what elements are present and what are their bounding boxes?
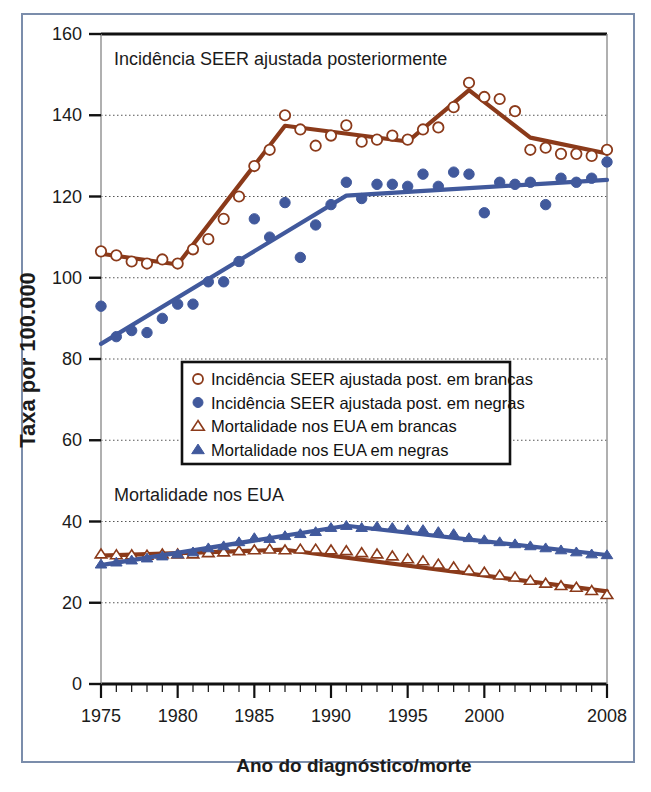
x-tick-label: 1985 (234, 706, 274, 726)
plot-series-group (95, 78, 613, 599)
x-tick-label: 1990 (311, 706, 351, 726)
legend-item-label: Incidência SEER ajustada post. em negras (211, 394, 525, 412)
x-axis-label: Ano do diagnóstico/morte (236, 755, 471, 776)
legend-item-label: Incidência SEER ajustada post. em branca… (211, 370, 533, 388)
legend-item-label: Mortalidade nos EUA em brancas (211, 417, 457, 435)
x-tick-label: 1980 (158, 706, 198, 726)
legend[interactable]: Incidência SEER ajustada post. em branca… (182, 362, 533, 464)
y-tick-label: 100 (52, 268, 82, 288)
y-tick-label: 80 (62, 349, 82, 369)
series-1 (96, 157, 612, 344)
series-0 (96, 78, 612, 269)
figure-frame: 020406080100120140160 197519801985199019… (0, 0, 651, 792)
x-tick-label: 1975 (81, 706, 121, 726)
y-tick-label: 140 (52, 105, 82, 125)
series-markers (96, 157, 612, 342)
series-3 (95, 521, 613, 568)
legend-item-3[interactable]: Mortalidade nos EUA em negras (192, 441, 449, 459)
x-tick-label: 2000 (464, 706, 504, 726)
annotation-mortality: Mortalidade nos EUA (114, 485, 284, 505)
x-tick-label: 1995 (388, 706, 428, 726)
annotation-incidence: Incidência SEER ajustada posteriormente (114, 49, 447, 69)
gridlines (101, 115, 607, 603)
y-tick-label: 40 (62, 512, 82, 532)
legend-item-1[interactable]: Incidência SEER ajustada post. em negras (193, 394, 525, 412)
y-tick-group: 020406080100120140160 (52, 24, 101, 694)
legend-item-0[interactable]: Incidência SEER ajustada post. em branca… (193, 370, 533, 388)
y-axis-label: Taxa por 100.000 (15, 272, 40, 448)
series-markers (96, 78, 612, 269)
legend-item-2[interactable]: Mortalidade nos EUA em brancas (192, 417, 457, 435)
y-tick-label: 120 (52, 187, 82, 207)
x-tick-group: 1975198019851990199520002008 (81, 684, 627, 726)
x-tick-label: 2008 (587, 706, 627, 726)
legend-item-label: Mortalidade nos EUA em negras (211, 441, 449, 459)
chart-canvas: 020406080100120140160 197519801985199019… (0, 0, 651, 792)
y-tick-label: 0 (72, 674, 82, 694)
y-tick-label: 160 (52, 24, 82, 44)
y-tick-label: 60 (62, 430, 82, 450)
y-tick-label: 20 (62, 593, 82, 613)
